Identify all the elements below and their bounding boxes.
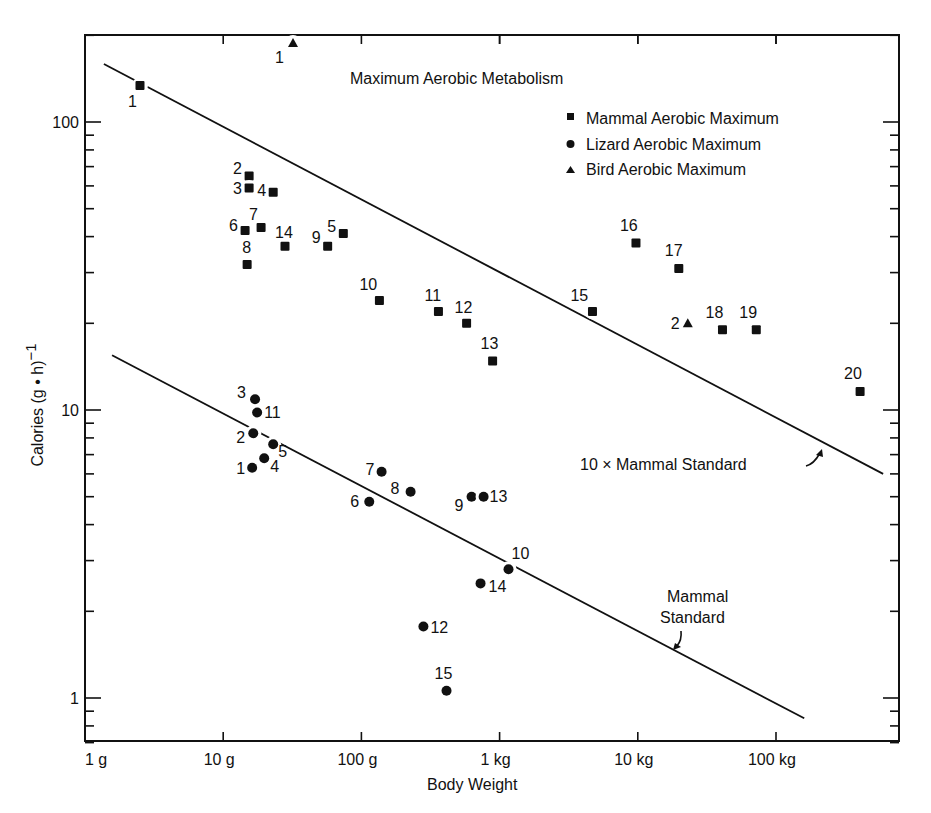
svg-text:Standard: Standard bbox=[660, 609, 725, 626]
reference-lines bbox=[104, 64, 883, 718]
arrow-icon bbox=[677, 631, 681, 646]
point-label: 4 bbox=[257, 182, 266, 199]
x-tick-label: 10 kg bbox=[614, 751, 653, 768]
mammal-square-icon bbox=[245, 171, 254, 180]
point-label: 16 bbox=[620, 217, 638, 234]
point-label: 14 bbox=[489, 578, 507, 595]
point-label: 9 bbox=[455, 497, 464, 514]
mammal-square-icon bbox=[241, 226, 250, 235]
point-label: 1 bbox=[236, 460, 245, 477]
point-label: 19 bbox=[739, 304, 757, 321]
mammal-square-icon bbox=[631, 239, 640, 248]
point-label: 7 bbox=[249, 206, 258, 223]
point-label: 12 bbox=[430, 619, 448, 636]
y-axis-label-group: Calories (g • h)−1 bbox=[22, 343, 46, 466]
point-label: 2 bbox=[671, 315, 680, 332]
lizard-circle-icon bbox=[250, 394, 260, 404]
point-label: 13 bbox=[481, 335, 499, 352]
x-tick-label: 1 kg bbox=[480, 751, 510, 768]
aerobic-metabolism-chart: 1 g10 g100 g1 kg10 kg100 kg110100 123456… bbox=[0, 0, 931, 813]
axis-tick-labels: 1 g10 g100 g1 kg10 kg100 kg110100 bbox=[52, 114, 796, 768]
lizard-circle-icon bbox=[259, 453, 269, 463]
svg-text:10 × Mammal Standard: 10 × Mammal Standard bbox=[580, 456, 747, 473]
mammal-square-icon bbox=[257, 223, 266, 232]
point-label: 9 bbox=[312, 229, 321, 246]
y-tick-label: 10 bbox=[61, 402, 79, 419]
legend-lizard: Lizard Aerobic Maximum bbox=[586, 136, 761, 153]
arrowhead-icon bbox=[816, 449, 823, 457]
lizard-circle-icon bbox=[504, 564, 514, 574]
lizard-circle-icon bbox=[377, 467, 387, 477]
plot-border bbox=[85, 35, 899, 741]
mammal-square-icon bbox=[488, 356, 497, 365]
point-label: 18 bbox=[705, 304, 723, 321]
mammal-square-icon bbox=[674, 264, 683, 273]
point-label: 14 bbox=[275, 224, 293, 241]
lizard-circle-icon bbox=[476, 578, 486, 588]
point-label: 8 bbox=[391, 480, 400, 497]
legend-triangle-icon bbox=[566, 166, 575, 173]
point-label: 11 bbox=[424, 287, 441, 304]
legend-circle-icon bbox=[567, 140, 575, 148]
legend-square-icon bbox=[567, 113, 574, 120]
point-label: 15 bbox=[570, 287, 588, 304]
y-axis-label: Calories (g • h)−1 bbox=[22, 343, 46, 466]
x-tick-label: 100 g bbox=[337, 751, 377, 768]
mammal-standard-line bbox=[112, 355, 804, 718]
x-tick-label: 1 g bbox=[85, 751, 107, 768]
mammal-square-icon bbox=[434, 307, 443, 316]
annotation-mammal-standard: Mammal Standard bbox=[660, 588, 728, 650]
mammal-square-icon bbox=[245, 183, 254, 192]
lizard-circle-icon bbox=[467, 492, 477, 502]
mammal-square-icon bbox=[462, 319, 471, 328]
mammal-square-icon bbox=[323, 242, 332, 251]
point-label: 7 bbox=[366, 461, 375, 478]
svg-text:Mammal: Mammal bbox=[667, 588, 728, 605]
point-label: 17 bbox=[665, 242, 683, 259]
point-label: 3 bbox=[233, 180, 242, 197]
point-label: 5 bbox=[278, 443, 287, 460]
x-tick-label: 100 kg bbox=[748, 751, 796, 768]
lizard-circle-icon bbox=[479, 492, 489, 502]
point-label: 2 bbox=[236, 429, 245, 446]
lizard-circle-icon bbox=[247, 463, 257, 473]
annotation-10x-standard: 10 × Mammal Standard bbox=[580, 449, 823, 473]
point-label: 11 bbox=[264, 404, 281, 421]
legend: Mammal Aerobic Maximum Lizard Aerobic Ma… bbox=[566, 110, 779, 178]
mammal-square-icon bbox=[856, 387, 865, 396]
lizard-circle-icon bbox=[252, 408, 262, 418]
lizard-circle-icon bbox=[442, 686, 452, 696]
mammal-square-icon bbox=[375, 296, 384, 305]
mammal-square-icon bbox=[718, 325, 727, 334]
point-label: 8 bbox=[242, 239, 251, 256]
plot-frame bbox=[85, 35, 899, 741]
point-label: 12 bbox=[455, 299, 473, 316]
mammal-square-icon bbox=[588, 307, 597, 316]
lizard-circle-icon bbox=[418, 622, 428, 632]
mammal-square-icon bbox=[752, 325, 761, 334]
lizard-circle-icon bbox=[248, 428, 258, 438]
axis-ticks bbox=[85, 35, 899, 743]
point-label: 15 bbox=[435, 665, 453, 682]
y-tick-label: 1 bbox=[70, 690, 79, 707]
point-label: 6 bbox=[350, 493, 359, 510]
lizard-circle-icon bbox=[406, 487, 416, 497]
x-tick-label: 10 g bbox=[204, 751, 235, 768]
legend-mammal: Mammal Aerobic Maximum bbox=[586, 110, 779, 127]
point-label: 2 bbox=[233, 160, 242, 177]
point-label: 6 bbox=[229, 217, 238, 234]
mammal-square-icon bbox=[243, 260, 252, 269]
point-label: 1 bbox=[128, 93, 137, 110]
point-label: 20 bbox=[844, 365, 862, 382]
point-label: 10 bbox=[359, 276, 377, 293]
point-label: 5 bbox=[327, 218, 336, 235]
arrowhead-icon bbox=[673, 643, 681, 650]
x-axis-label: Body Weight bbox=[427, 776, 518, 793]
mammal-square-icon bbox=[280, 242, 289, 251]
point-label: 13 bbox=[490, 488, 508, 505]
y-tick-label: 100 bbox=[52, 114, 79, 131]
mammal-square-icon bbox=[135, 81, 144, 90]
point-label: 1 bbox=[275, 49, 284, 66]
lizard-circle-icon bbox=[364, 497, 374, 507]
point-label: 3 bbox=[237, 384, 246, 401]
